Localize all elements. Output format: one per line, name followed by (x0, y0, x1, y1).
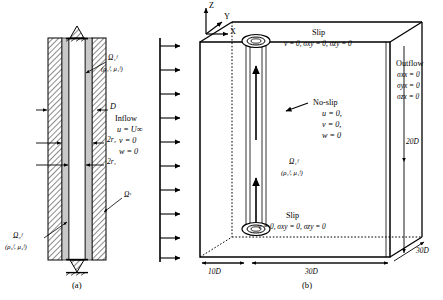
figure-root: Ω₁ᶠ (ρ₁ᶠ, μ₁ᶠ) D 2r₂ 2r₁ Ωˢ Ω₂ᶠ (ρ₂ᶠ, μ₂… (0, 0, 443, 300)
inflow-u: u = U∞ (117, 126, 142, 135)
slip-bottom-title: Slip (286, 212, 299, 221)
outflow-szx: σzx = 0 (397, 93, 419, 101)
slip-top-title: Slip (312, 29, 325, 38)
outflow-title: Outflow (396, 60, 423, 69)
label-outer-radius: 2r₂ (107, 136, 116, 144)
label-solid-domain-a: Ωˢ (124, 191, 131, 199)
slip-top-conditions: v = 0, σxy = 0, σzy = 0 (284, 40, 352, 48)
inflow-title: Inflow (115, 115, 137, 124)
label-inner-radius: 2r₁ (107, 158, 116, 166)
panel-a-caption: (a) (72, 281, 82, 290)
dimension-depth-30D: 30D (416, 247, 429, 255)
panel-b-caption: (b) (302, 281, 312, 290)
no-slip-u: u = 0, (322, 110, 342, 119)
label-fluid1-props-b: (ρ₁ᶠ, μ₁ᶠ) (281, 169, 303, 176)
axis-label-z: Z (209, 2, 214, 11)
outflow-syx: σyx = 0 (397, 82, 420, 90)
label-fluid2-domain-a: Ω₂ᶠ (13, 232, 22, 240)
axis-label-x: X (230, 28, 236, 37)
panel-a-pipe-diagram (36, 26, 180, 275)
slip-bottom-conditions: v = 0, σxy = 0, σzy = 0 (258, 223, 326, 231)
dimension-downstream-30D: 30D (305, 268, 318, 276)
no-slip-title: No-slip (313, 99, 338, 108)
dimension-upstream-10D: 10D (208, 268, 221, 276)
axis-label-y: Y (224, 13, 230, 22)
inflow-v: v = 0 (119, 137, 136, 146)
label-diameter-D: D (110, 103, 116, 112)
no-slip-w: w = 0 (322, 132, 341, 141)
label-fluid1-props-a: (ρ₁ᶠ, μ₁ᶠ) (101, 65, 123, 72)
label-fluid1-domain-b: Ω₁ᶠ (289, 158, 298, 166)
figure-vector-layer (0, 0, 443, 300)
outflow-sxx: σxx = 0 (397, 71, 420, 79)
no-slip-v: v = 0, (322, 121, 341, 130)
inflow-w: w = 0 (119, 148, 138, 157)
dimension-height-20D: 20D (406, 138, 419, 146)
label-fluid1-domain-a: Ω₁ᶠ (108, 54, 117, 62)
label-fluid2-props-a: (ρ₂ᶠ, μ₂ᶠ) (5, 243, 27, 250)
